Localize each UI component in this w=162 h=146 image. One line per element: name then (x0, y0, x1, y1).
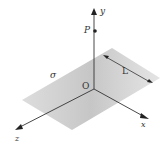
charged-plane-diagram: y P O σ L z x (0, 0, 162, 146)
y-axis-arrowhead-icon (91, 8, 97, 15)
x-axis-arrowhead-icon (140, 113, 149, 119)
surface-charge-label: σ (50, 70, 57, 80)
point-p-dot (93, 29, 97, 33)
point-p-label: P (83, 25, 91, 35)
z-axis-label: z (14, 134, 20, 143)
charged-plane (22, 48, 160, 130)
dimension-label: L (122, 66, 128, 76)
x-axis-label: x (141, 120, 146, 129)
origin-label: O (82, 81, 89, 91)
z-axis-arrowhead-icon (15, 124, 23, 130)
y-axis-label: y (99, 6, 106, 16)
